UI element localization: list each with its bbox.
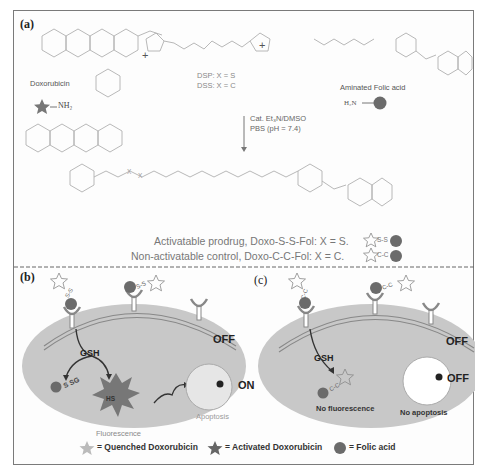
apoptosis-label: Apoptosis (196, 412, 229, 421)
panel-b-label: (b) (20, 270, 35, 285)
dsp-label: DSP: X = S (197, 71, 235, 80)
product-structure (26, 124, 392, 206)
folic-acid-circle-icon (334, 442, 346, 454)
folic-acid-circle-icon (124, 281, 136, 293)
legend-folic-label: = Folic acid (349, 442, 396, 452)
no-apoptosis-label: No apoptosis (400, 408, 448, 417)
product-x2-label: X (138, 172, 142, 179)
activated-star-icon (208, 441, 223, 455)
folic-acid-label: Aminated Folic acid (340, 83, 405, 92)
product-x1-label: X (127, 168, 131, 175)
condition-catalyst: Cat. Et₃N/DMSO (250, 114, 306, 123)
gsh-label: GSH (80, 348, 100, 358)
arrow-head-icon (241, 147, 247, 152)
folic-acid-structure (314, 33, 472, 75)
membrane-state-label: OFF (446, 335, 468, 347)
activated-star-icon (34, 99, 50, 114)
control-link-label: C-C (377, 251, 389, 258)
legend-quenched-label: = Quenched Doxorubicin (97, 442, 198, 452)
folic-acid-circle-icon (374, 97, 387, 110)
no-fluorescence-label: No fluorescence (316, 404, 374, 413)
cell-state-label: ON (238, 379, 255, 391)
gsh-label: GSH (314, 353, 334, 363)
dsp-linker-structure (146, 33, 270, 51)
prodrug-label: Activatable prodrug, Doxo-S-S-Fol: X = S… (154, 235, 349, 247)
figure-frame: (a) Doxorubicin NH₂ + + DSP: X = S DSS: … (13, 10, 474, 465)
folic-acid-amine-label: H₂N (344, 99, 357, 107)
panel-a-label: (a) (20, 17, 34, 32)
panel-c-label: (c) (254, 273, 267, 288)
quenched-star-icon (398, 275, 415, 291)
folic-acid-circle-icon (370, 282, 382, 294)
dss-label: DSS: X = C (197, 81, 236, 90)
control-label: Non-activatable control, Doxo-C-C-Fol: X… (131, 250, 344, 262)
fluorescence-label: Fluorescence (96, 429, 141, 438)
panel-b-graphics (22, 273, 246, 428)
folic-acid-circle-icon (318, 388, 329, 399)
plus-sign: + (142, 49, 148, 61)
quenched-star-icon (289, 273, 306, 289)
doxorubicin-amine-label: NH₂ (58, 101, 72, 110)
nucleus (186, 364, 232, 410)
condition-buffer: PBS (pH = 7.4) (250, 124, 301, 133)
nucleus (403, 357, 451, 405)
cell-state-label: OFF (447, 372, 469, 384)
prodrug-link-label: S-S (377, 236, 388, 243)
plus-sign: + (259, 39, 265, 51)
doxorubicin-label: Doxorubicin (30, 79, 70, 88)
legend-activated-label: = Activated Doxorubicin (225, 442, 322, 452)
folic-acid-circle-icon (51, 382, 62, 393)
quenched-star-icon (51, 273, 68, 289)
quenched-star-icon (148, 275, 165, 291)
quenched-star-icon (80, 441, 95, 455)
folic-acid-circle-icon (65, 298, 77, 310)
membrane-state-label: OFF (213, 333, 235, 345)
thiol-label: HS (106, 395, 115, 402)
